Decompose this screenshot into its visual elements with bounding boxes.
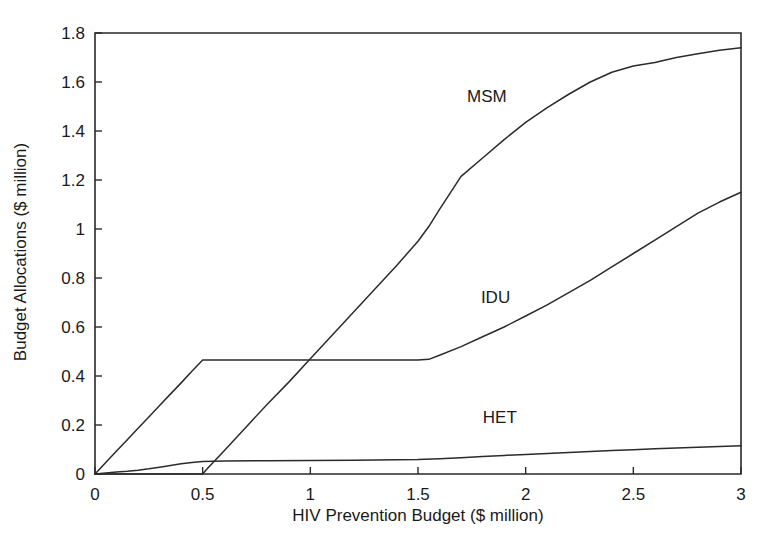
series-label-msm: MSM <box>467 87 507 106</box>
x-tick-label: 3 <box>736 485 745 504</box>
x-tick-label: 1 <box>306 485 315 504</box>
x-tick-label: 1.5 <box>406 485 430 504</box>
series-label-het: HET <box>483 408 517 427</box>
y-tick-label: 0.2 <box>61 416 85 435</box>
y-tick-label: 1.8 <box>61 24 85 43</box>
x-tick-label: 2.5 <box>622 485 646 504</box>
figure-background <box>0 0 768 544</box>
x-axis-title: HIV Prevention Budget ($ million) <box>292 506 543 525</box>
x-tick-label: 2 <box>521 485 530 504</box>
y-tick-label: 1.2 <box>61 171 85 190</box>
y-tick-label: 1 <box>76 220 85 239</box>
y-tick-label: 1.4 <box>61 122 85 141</box>
y-tick-label: 0.8 <box>61 269 85 288</box>
x-tick-label: 0.5 <box>191 485 215 504</box>
y-tick-label: 0.6 <box>61 318 85 337</box>
y-tick-label: 1.6 <box>61 73 85 92</box>
series-label-idu: IDU <box>481 288 510 307</box>
y-tick-label: 0 <box>76 465 85 484</box>
x-tick-label: 0 <box>90 485 99 504</box>
y-tick-label: 0.4 <box>61 367 85 386</box>
chart-figure: 00.511.522.53 00.20.40.60.811.21.41.61.8… <box>0 0 768 544</box>
y-axis-title: Budget Allocations ($ million) <box>11 143 30 361</box>
